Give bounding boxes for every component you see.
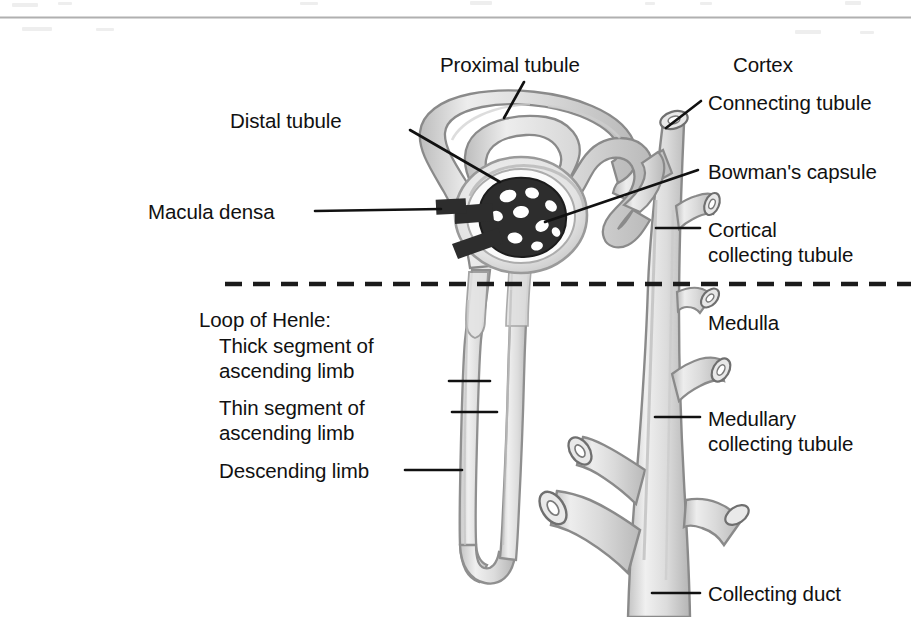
label-macula-densa: Macula densa [148, 199, 274, 224]
label-thin-segment-line1: Thin segment of [219, 395, 365, 420]
label-medulla: Medulla [708, 310, 779, 335]
macula-densa [436, 198, 467, 215]
label-proximal-tubule: Proximal tubule [440, 52, 580, 77]
medullary-collecting-branch [672, 355, 734, 401]
label-medullary-collecting-tubule-line2: collecting tubule [708, 431, 853, 456]
label-cortex: Cortex [733, 52, 793, 77]
label-thick-segment-line2: ascending limb [219, 358, 354, 383]
label-loop-of-henle-heading: Loop of Henle: [199, 307, 331, 332]
label-cortical-collecting-tubule-line2: collecting tubule [708, 242, 853, 267]
label-distal-tubule: Distal tubule [230, 108, 342, 133]
label-collecting-duct: Collecting duct [708, 581, 841, 606]
cortical-collecting-branch-lower [677, 285, 723, 313]
loop-of-henle [460, 268, 531, 584]
label-descending-limb: Descending limb [219, 458, 369, 483]
leader-macula-densa [315, 209, 441, 211]
label-connecting-tubule: Connecting tubule [708, 90, 872, 115]
label-thick-segment-line1: Thick segment of [219, 333, 374, 358]
label-thin-segment-line2: ascending limb [219, 420, 354, 445]
label-cortical-collecting-tubule-line1: Cortical [708, 217, 777, 242]
nephron-figure-page: Proximal tubule Cortex Connecting tubule… [0, 0, 911, 617]
collecting-branch-left-upper [564, 433, 645, 504]
collecting-branch-left-lower [534, 487, 640, 573]
label-medullary-collecting-tubule-line1: Medullary [708, 406, 796, 431]
label-bowmans-capsule: Bowman's capsule [708, 159, 877, 184]
